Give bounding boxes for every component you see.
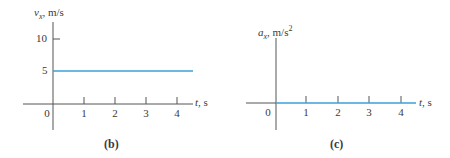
x-tick-label-0: 0 [261,106,275,118]
panel-caption-c: (c) [330,137,343,152]
x-tick-label-1: 1 [299,106,313,118]
y-tick-label-5: 5 [42,64,48,76]
x-tick-label-2: 2 [108,107,122,119]
panel-caption-b: (b) [104,137,119,152]
x-tick-label-3: 3 [362,106,376,118]
x-axis-label: t, s [195,96,208,108]
x-tick-label-3: 3 [139,107,153,119]
acceleration-chart-panel: ax, m/s2 0 1 2 3 4 t, s (c) [225,0,450,158]
x-axis-label: t, s [419,96,432,108]
x-tick-label-0: 0 [40,107,54,119]
y-axis-label: vx, m/s [34,6,64,21]
x-tick-label-1: 1 [77,107,91,119]
y-tick-label-10: 10 [36,32,47,44]
y-axis-label: ax, m/s2 [258,24,292,41]
x-tick-label-4: 4 [394,106,408,118]
x-tick-label-4: 4 [170,107,184,119]
velocity-chart-panel: vx, m/s 10 5 0 1 2 3 4 t, s (b) [0,0,225,158]
velocity-chart-plot [0,0,225,158]
x-tick-label-2: 2 [331,106,345,118]
